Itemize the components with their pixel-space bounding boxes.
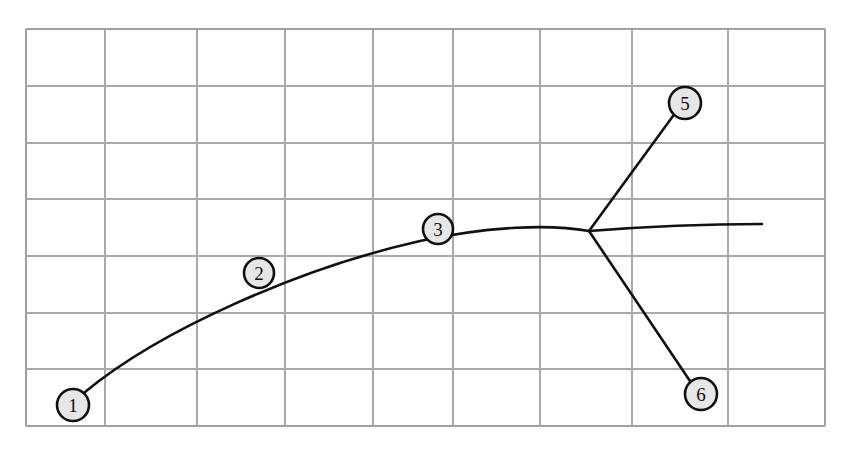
node-group: 12356 (57, 87, 717, 421)
edge-junction-tail (589, 224, 762, 231)
edge-group (85, 116, 762, 392)
node-label-5: 5 (680, 93, 690, 114)
edge-branch-upper (589, 116, 673, 231)
diagram-canvas: 12356 (0, 0, 847, 451)
node-label-6: 6 (696, 384, 706, 405)
node-1[interactable]: 1 (57, 389, 89, 421)
node-5[interactable]: 5 (669, 87, 701, 119)
edge-main-curve (85, 227, 589, 392)
node-label-3: 3 (433, 219, 443, 240)
node-3[interactable]: 3 (423, 214, 453, 244)
node-label-1: 1 (68, 395, 78, 416)
node-2[interactable]: 2 (244, 258, 274, 288)
diagram-svg: 12356 (0, 0, 847, 451)
edge-branch-lower (589, 231, 690, 381)
node-6[interactable]: 6 (685, 378, 717, 410)
node-label-2: 2 (254, 263, 264, 284)
